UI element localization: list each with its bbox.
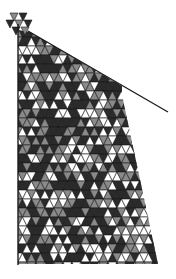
triangle-tiles bbox=[9, 28, 176, 279]
fractal-triangle-artwork bbox=[0, 0, 176, 279]
